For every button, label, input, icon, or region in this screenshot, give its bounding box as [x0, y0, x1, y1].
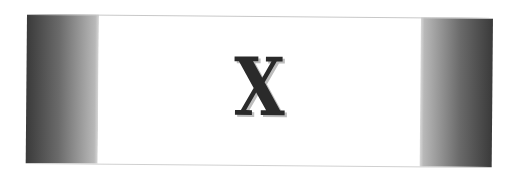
center-panel: X [98, 16, 421, 167]
right-gradient-panel [420, 17, 493, 167]
banner: X [26, 14, 493, 168]
left-gradient-panel [26, 14, 99, 164]
x-letter-logo: X [127, 46, 392, 128]
